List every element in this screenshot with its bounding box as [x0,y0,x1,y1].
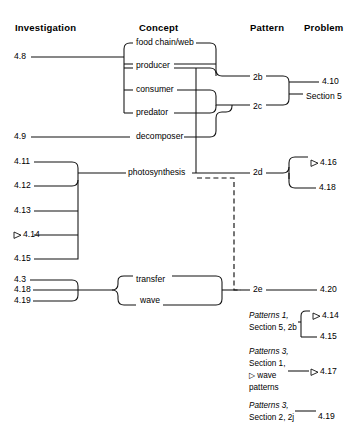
problem-label-4-18: 4.18 [319,182,336,192]
note-3-line-2: Section 2, 2j [249,413,294,422]
note-1-line-2: Section 5, 2b [249,323,297,332]
problem-label-4-14: 4.14 [322,310,339,320]
concept-label-food-chain-web: food chain/web [136,37,194,47]
concept-label-producer: producer [136,60,170,70]
investigation-label-4-9: 4.9 [14,131,26,141]
investigation-label-4-15: 4.15 [14,253,31,263]
concept-label-decomposer: decomposer [136,131,183,141]
investigation-label-4-11: 4.11 [14,156,30,166]
pattern-label-2d: 2d [253,167,263,177]
pattern-label-2b: 2b [253,72,263,82]
problem-label-4-15: 4.15 [320,331,337,341]
note-2-line-3: ▷ wave [249,371,277,380]
triangle-marker-icon [311,369,318,375]
investigation-label-4-12: 4.12 [14,180,31,190]
problem-label-section-5: Section 5 [306,91,342,101]
note-2-line-2: Section 1, [249,359,285,368]
concept-label-predator: predator [136,107,168,117]
pattern-label-2c: 2c [253,101,263,111]
pattern-label-2e: 2e [253,284,263,294]
problem-label-4-10: 4.10 [322,76,339,86]
note-2-line-1: Patterns 3, [249,347,289,356]
triangle-marker-icon [313,313,320,319]
concept-label-transfer: transfer [136,274,165,284]
diagram-canvas: Investigation Concept Pattern Problem fo… [0,0,356,445]
column-header-problem: Problem [304,22,343,33]
concept-map-diagram: Investigation Concept Pattern Problem fo… [0,0,356,445]
investigation-label-4-14: 4.14 [23,229,40,239]
concept-label-consumer: consumer [136,84,174,94]
investigation-label-4-13: 4.13 [14,205,31,215]
problem-label-4-17: 4.17 [320,366,337,376]
note-3-line-1: Patterns 3, [249,401,289,410]
problem-label-4-16: 4.16 [320,157,337,167]
investigation-label-4-8: 4.8 [14,51,26,61]
triangle-marker-icon [14,232,21,238]
investigation-label-4-3: 4.3 [14,274,26,284]
triangle-marker-icon [311,160,318,166]
note-2-line-4: patterns [249,383,279,392]
column-header-pattern: Pattern [250,22,284,33]
column-header-concept: Concept [139,22,179,33]
concept-label-photosynthesis: photosynthesis [128,167,185,177]
investigation-label-4-19: 4.19 [14,295,31,305]
column-header-investigation: Investigation [15,22,76,33]
note-1-line-1: Patterns 1, [249,311,289,320]
problem-label-4-19: 4.19 [318,411,335,421]
investigation-label-4-18: 4.18 [14,284,31,294]
problem-label-4-20: 4.20 [320,284,337,294]
concept-label-wave: wave [139,295,160,305]
